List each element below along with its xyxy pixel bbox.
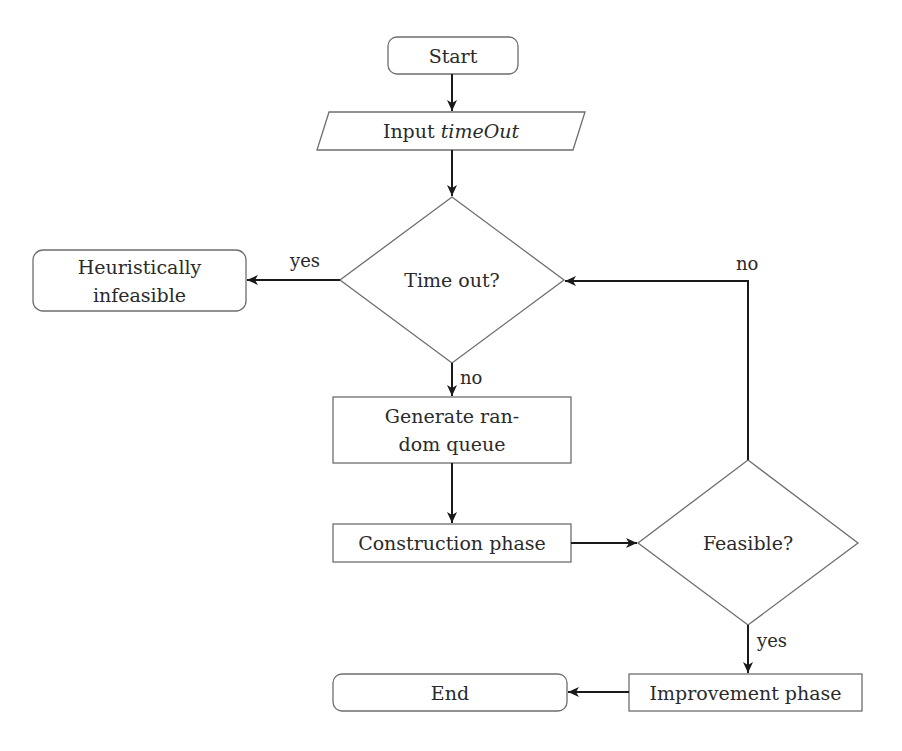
feasible-label: Feasible? (638, 529, 858, 557)
end-text: End (431, 679, 469, 707)
end-label: End (333, 674, 567, 711)
input-label: Input timeOut (317, 112, 585, 150)
feasible-text: Feasible? (703, 529, 793, 557)
generate-line1: Generate ran- (385, 402, 519, 430)
improvement-text: Improvement phase (649, 679, 841, 707)
edge-label-timeout-yes: yes (290, 250, 320, 271)
input-prefix: Input (383, 120, 435, 142)
improvement-label: Improvement phase (629, 674, 862, 711)
edge-label-timeout-no: no (460, 367, 482, 388)
generate-label: Generate ran- dom queue (333, 397, 571, 463)
timeout-text: Time out? (404, 266, 500, 294)
infeasible-line2: infeasible (93, 281, 186, 309)
construction-label: Construction phase (333, 524, 571, 562)
infeasible-label: Heuristically infeasible (33, 250, 246, 311)
timeout-label: Time out? (340, 266, 564, 294)
start-label: Start (388, 37, 518, 74)
edge-label-feasible-yes: yes (757, 630, 787, 651)
infeasible-line1: Heuristically (78, 253, 202, 281)
input-text: Input timeOut (383, 117, 519, 145)
input-variable: timeOut (441, 120, 519, 142)
edge-feasible-timeout-loop (565, 281, 748, 460)
generate-line2: dom queue (399, 430, 506, 458)
start-text: Start (429, 42, 478, 70)
construction-text: Construction phase (358, 529, 546, 557)
edge-label-feasible-no: no (736, 253, 758, 274)
